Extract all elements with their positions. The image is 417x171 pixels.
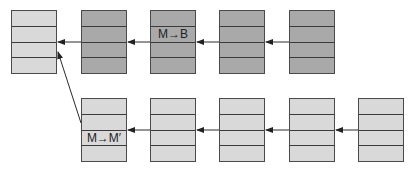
block-row: [151, 99, 195, 115]
block-row: [290, 11, 334, 27]
block-top-5: [289, 10, 335, 74]
block-bottom-5: [358, 98, 404, 162]
block-row: [359, 115, 403, 131]
block-row: [220, 27, 264, 43]
block-row: [82, 58, 126, 73]
block-row: [359, 146, 403, 161]
arrow-layer: [0, 0, 417, 171]
block-row: [82, 11, 126, 27]
block-row: [290, 27, 334, 43]
block-top-3: M→B: [150, 10, 196, 74]
block-row: [290, 146, 334, 161]
block-chain-diagram: M→B M→M′: [0, 0, 417, 171]
block-row: [82, 146, 126, 161]
block-row: [151, 58, 195, 73]
block-label-m-to-b: M→B: [151, 27, 195, 43]
block-row: [220, 58, 264, 73]
block-top-2: [81, 10, 127, 74]
block-bottom-2: [150, 98, 196, 162]
block-row: [12, 27, 56, 43]
block-row: [151, 115, 195, 131]
block-row: [220, 43, 264, 59]
block-row: [290, 131, 334, 147]
block-bottom-3: [219, 98, 265, 162]
block-row: [12, 43, 56, 59]
block-row: [290, 115, 334, 131]
block-row: [220, 99, 264, 115]
block-row: [82, 99, 126, 115]
block-bottom-4: [289, 98, 335, 162]
block-row: [290, 99, 334, 115]
block-row: [82, 43, 126, 59]
block-row: [220, 146, 264, 161]
block-row: [151, 11, 195, 27]
block-row: [220, 115, 264, 131]
block-row: [151, 146, 195, 161]
block-row: [151, 43, 195, 59]
block-top-1: [11, 10, 57, 74]
block-row: [220, 131, 264, 147]
block-row: [290, 58, 334, 73]
block-row: [12, 11, 56, 27]
block-row: [359, 131, 403, 147]
block-row: [359, 99, 403, 115]
block-bottom-1: M→M′: [81, 98, 127, 162]
block-row: [220, 11, 264, 27]
block-row: [82, 115, 126, 131]
arrow-b1-t1: [58, 52, 81, 123]
block-row: [290, 43, 334, 59]
block-label-m-to-m-prime: M→M′: [82, 131, 126, 147]
block-row: [82, 27, 126, 43]
block-row: [12, 58, 56, 73]
block-row: [151, 131, 195, 147]
block-top-4: [219, 10, 265, 74]
